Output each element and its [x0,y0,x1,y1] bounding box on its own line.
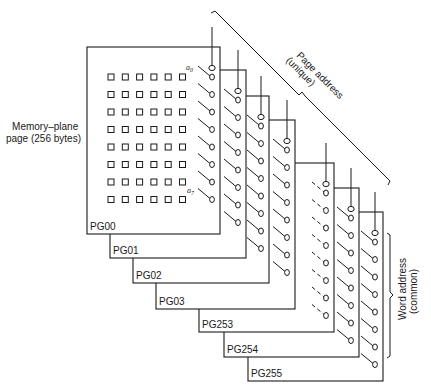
core-loop [373,239,378,245]
memory-cell [122,162,128,168]
memory-cell [180,179,186,185]
memory-cell [122,127,128,133]
core-loop [210,197,215,203]
core-loop [236,97,241,103]
plane-label: PG03 [159,296,185,307]
memory-planes: PG255PG254PG253PG03PG02PG01PG00 [87,27,383,381]
memory-cell [165,127,171,133]
core-loop [259,141,264,147]
core-loop [324,295,329,301]
memory-cell [137,144,143,150]
plane-label: PG254 [227,344,259,355]
memory-cell [122,144,128,150]
word-address-label: Word address (common) [397,255,419,320]
page-select-oval [209,65,215,70]
core-loop [349,268,354,274]
memory-cell [180,162,186,168]
memory-cell [137,197,143,203]
core-loop [349,285,354,291]
core-loop [373,257,378,263]
core-loop [236,202,241,208]
core-loop [349,233,354,239]
page-select-oval [372,230,378,235]
memory-cell [151,109,157,115]
memory-cell [165,179,171,185]
memory-cell [137,109,143,115]
core-loop [324,313,329,319]
memory-cell [137,162,143,168]
core-loop [259,228,264,234]
core-loop [373,327,378,333]
core-loop [259,158,264,164]
page-select-oval [348,206,354,211]
core-loop [349,303,354,309]
memory-plane-diagram: PG255PG254PG253PG03PG02PG01PG00 Page add… [0,0,431,390]
page-select-oval [323,181,329,186]
core-loop [373,344,378,350]
memory-cell [165,197,171,203]
memory-cell [151,162,157,168]
plane-label: PG01 [113,245,139,256]
page-select-oval [235,88,241,93]
core-loop [210,92,215,98]
memory-cell [151,74,157,80]
memory-cell [180,197,186,203]
core-loop [259,176,264,182]
core-loop [349,250,354,256]
core-loop [210,179,215,185]
memory-cell [165,162,171,168]
memory-cell [151,92,157,98]
core-loop [324,278,329,284]
core-loop [210,127,215,133]
plane-label: PG253 [202,319,234,330]
memory-cell [137,92,143,98]
core-loop [285,165,290,171]
memory-cell [108,92,114,98]
memory-cell [108,144,114,150]
memory-cell [180,127,186,133]
memory-cell [108,162,114,168]
core-loop [349,320,354,326]
core-loop [236,220,241,226]
memory-cell [151,197,157,203]
core-loop [236,167,241,173]
memory-cell [165,144,171,150]
core-loop [349,215,354,221]
memory-plane-label: Memory–plane page (256 bytes) [6,121,81,144]
memory-cell [180,92,186,98]
memory-cell [137,74,143,80]
memory-plane: PG00 [87,27,220,234]
plane-label: PG00 [90,221,116,232]
core-loop [324,243,329,249]
core-loop [210,74,215,80]
memory-cell [108,74,114,80]
core-loop [324,225,329,231]
core-loop [349,338,354,344]
core-loop [210,162,215,168]
memory-cell [165,74,171,80]
core-loop [285,182,290,188]
memory-cell [122,109,128,115]
core-loop [285,270,290,276]
core-loop [259,123,264,129]
core-loop [373,309,378,315]
core-loop [324,208,329,214]
core-loop [259,193,264,199]
plane-label: PG02 [136,270,162,281]
memory-cell [151,144,157,150]
memory-cell [108,109,114,115]
core-loop [210,144,215,150]
memory-cell [108,127,114,133]
memory-cell [180,109,186,115]
core-loop [285,147,290,153]
core-loop [285,252,290,258]
core-loop [373,362,378,368]
core-loop [236,185,241,191]
core-loop [236,115,241,121]
memory-cell [165,92,171,98]
core-loop [210,109,215,115]
memory-cell [122,197,128,203]
memory-cell [180,74,186,80]
memory-cell [151,127,157,133]
core-loop [324,190,329,196]
